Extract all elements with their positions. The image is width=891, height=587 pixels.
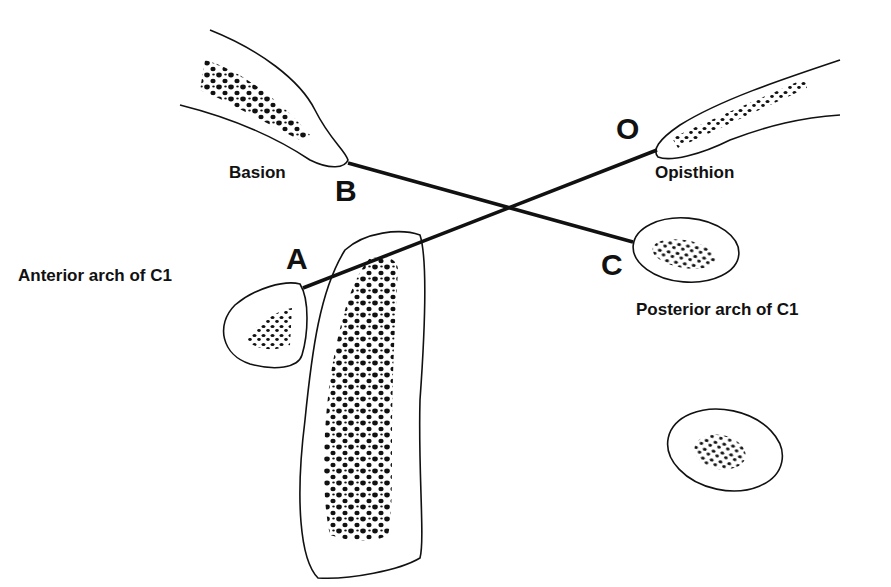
letter-c: C xyxy=(601,248,623,282)
label-posterior-arch: Posterior arch of C1 xyxy=(636,300,799,320)
anterior-arch-c1 xyxy=(224,283,307,368)
posterior-arch-c1 xyxy=(630,214,741,287)
label-opisthion: Opisthion xyxy=(655,163,734,183)
label-basion: Basion xyxy=(229,163,286,183)
letter-b: B xyxy=(335,174,357,208)
craniovertebral-diagram xyxy=(0,0,891,587)
basion-bone xyxy=(180,30,348,167)
letter-a: A xyxy=(286,242,308,276)
opisthion-bone xyxy=(656,60,840,159)
posterior-element xyxy=(660,399,790,501)
letter-o: O xyxy=(616,112,639,146)
label-anterior-arch: Anterior arch of C1 xyxy=(18,266,172,286)
